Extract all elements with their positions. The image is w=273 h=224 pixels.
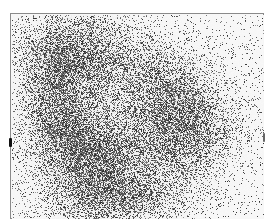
left-edge-marker bbox=[9, 138, 12, 147]
right-edge-marker bbox=[263, 133, 265, 142]
scan-frame bbox=[10, 13, 264, 219]
scan-image bbox=[12, 15, 264, 219]
